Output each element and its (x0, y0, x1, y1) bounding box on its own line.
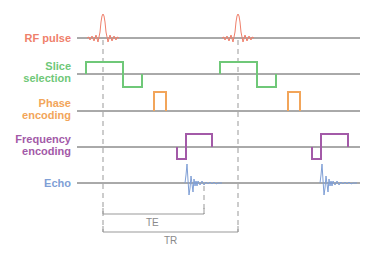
tr-label: TR (164, 235, 177, 246)
label-line: selection (23, 72, 71, 84)
phase-gradients (154, 92, 300, 111)
phase-gradient-1 (154, 92, 166, 111)
baselines (77, 38, 360, 183)
label-phase-encoding: Phase encoding (22, 97, 71, 121)
phase-gradient-2 (288, 92, 300, 111)
label-slice-selection: Slice selection (23, 60, 71, 84)
label-line: Echo (44, 177, 71, 189)
echo-2 (320, 164, 357, 195)
label-line: Slice (23, 60, 71, 72)
label-line: Phase (22, 97, 71, 109)
timing-brackets (103, 208, 238, 232)
label-line: Frequency (15, 133, 71, 145)
te-label: TE (146, 217, 159, 228)
tr-bracket (103, 226, 238, 232)
te-bracket (103, 208, 204, 214)
label-line: encoding (22, 109, 71, 121)
label-line: RF pulse (25, 32, 71, 44)
label-frequency-encoding: Frequency encoding (15, 133, 71, 157)
label-echo: Echo (44, 177, 71, 189)
echo-signals (185, 164, 357, 195)
label-rf-pulse: RF pulse (25, 32, 71, 44)
label-line: encoding (15, 145, 71, 157)
